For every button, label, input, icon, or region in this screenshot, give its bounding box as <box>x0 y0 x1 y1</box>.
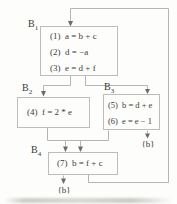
statement-1-code: a = b + c <box>65 28 97 44</box>
statement-1-number: (1) <box>50 28 65 44</box>
block-label-b2: B2 <box>22 83 32 96</box>
statement-6-code: e = e − 1 <box>122 113 152 129</box>
flow-graph-figure: B1 B2 B3 B4 (1) a = b + c (2) d = −a (3)… <box>0 0 177 204</box>
arrowhead-b3-exit <box>145 134 150 139</box>
statement-6-number: (6) <box>108 113 122 129</box>
edge-b1-to-b3 <box>86 76 148 89</box>
arrowhead-b4-exit <box>61 179 66 185</box>
exit-set-label-b3: {b} <box>138 139 158 150</box>
statement-3-code: e = d + f <box>65 60 96 76</box>
block-label-b4: B4 <box>31 145 41 158</box>
statement-4-code: f = 2 * e <box>42 98 72 127</box>
statement-2: (2) d = −a <box>41 44 117 60</box>
statement-4-number: (4) <box>27 98 42 127</box>
edge-b2-b3-junction <box>48 128 109 141</box>
statement-2-number: (2) <box>50 44 65 60</box>
arrowhead-into-b2 <box>41 91 46 97</box>
statement-3-number: (3) <box>50 60 65 76</box>
block-label-b3-base: B <box>104 81 111 92</box>
basic-block-b2: (4) f = 2 * e <box>17 97 90 128</box>
statement-1: (1) a = b + c <box>41 28 117 44</box>
statement-5: (5) b = d + e <box>104 97 159 113</box>
block-label-b1-base: B <box>28 18 35 29</box>
statement-6: (6) e = e − 1 <box>104 113 159 129</box>
block-label-b4-base: B <box>31 144 38 155</box>
statement-4: (4) f = 2 * e <box>18 98 89 127</box>
statement-7-code: b = f + c <box>72 153 103 174</box>
statement-7: (7) b = f + c <box>49 153 117 174</box>
block-label-b2-sub: 2 <box>29 88 33 96</box>
edge-b1-to-b2 <box>44 76 71 91</box>
exit-set-label-b4: {b} <box>54 185 74 196</box>
statement-5-code: b = d + e <box>122 97 152 113</box>
block-label-b1-sub: 1 <box>35 24 39 32</box>
basic-block-b4: (7) b = f + c <box>48 152 118 175</box>
block-label-b2-base: B <box>22 82 29 93</box>
statement-3: (3) e = d + f <box>41 60 117 76</box>
basic-block-b1: (1) a = b + c (2) d = −a (3) e = d + f <box>40 26 118 76</box>
basic-block-b3: (5) b = d + e (6) e = e − 1 <box>103 94 160 130</box>
statement-7-number: (7) <box>57 153 72 174</box>
scan-artifact <box>4 198 173 203</box>
block-label-b4-sub: 4 <box>38 150 42 158</box>
block-label-b1: B1 <box>28 19 38 32</box>
statement-2-code: d = −a <box>65 44 88 60</box>
statement-5-number: (5) <box>108 97 122 113</box>
